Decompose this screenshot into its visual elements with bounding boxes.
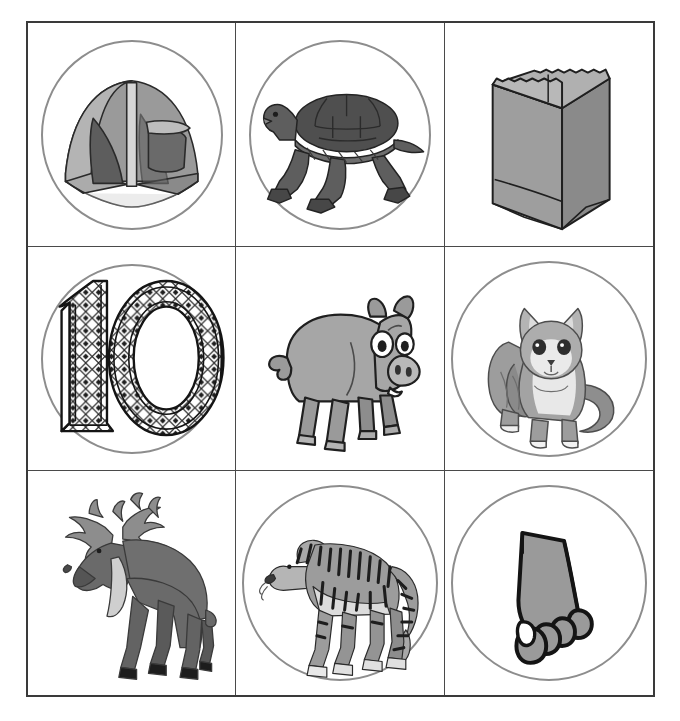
turtle-icon <box>236 23 443 246</box>
cat-artwork <box>445 247 653 470</box>
grid-cell-foot[interactable] <box>445 471 653 695</box>
grid-cell-moose[interactable] <box>28 471 236 695</box>
grid-cell-tent[interactable] <box>28 23 236 247</box>
pig-icon <box>236 247 443 470</box>
tiger-icon <box>236 471 443 695</box>
cat-icon <box>445 247 653 470</box>
foot-icon <box>445 471 653 695</box>
grid-cell-pig[interactable] <box>236 247 444 471</box>
tent-artwork <box>28 23 235 246</box>
grid-cell-cat[interactable] <box>445 247 653 471</box>
grid-cell-turtle[interactable] <box>236 23 444 247</box>
ten-artwork <box>28 247 235 470</box>
bag-artwork <box>445 23 653 246</box>
moose-artwork <box>28 471 235 695</box>
bag-icon <box>445 23 653 246</box>
grid-cell-ten[interactable] <box>28 247 236 471</box>
pig-artwork <box>236 247 443 470</box>
number-ten-icon <box>28 247 235 470</box>
grid-cell-tiger[interactable] <box>236 471 444 695</box>
tent-icon <box>28 23 235 246</box>
worksheet-page <box>0 0 680 721</box>
foot-artwork <box>445 471 653 695</box>
picture-grid <box>26 21 655 697</box>
grid-cell-bag[interactable] <box>445 23 653 247</box>
tiger-artwork <box>236 471 443 695</box>
moose-icon <box>28 471 235 695</box>
turtle-artwork <box>236 23 443 246</box>
